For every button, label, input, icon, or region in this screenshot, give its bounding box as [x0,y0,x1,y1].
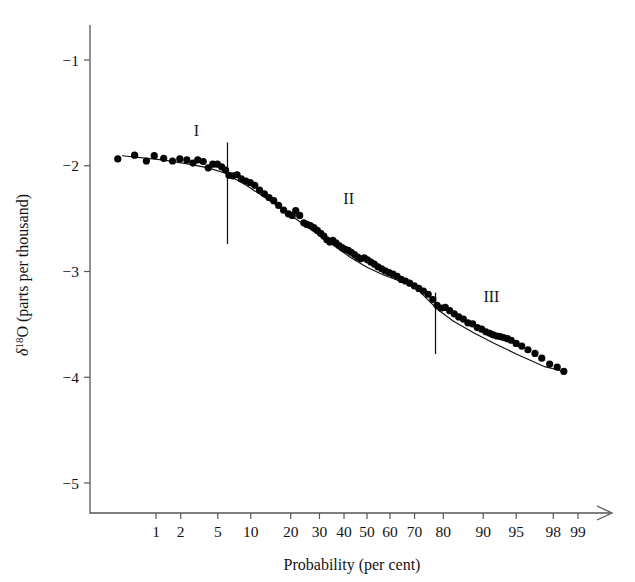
data-point [176,155,183,162]
svg-text:δ18O (parts per thousand): δ18O (parts per thousand) [13,194,32,356]
chart-canvas: δ18O (parts per thousand) −1−2−3−4−5 125… [0,0,635,582]
x-axis-title: Probability (per cent) [284,556,421,574]
y-axis-tick-label: −2 [63,157,80,174]
x-axis-tick-label: 60 [382,523,398,540]
data-point [538,355,545,362]
data-point [546,360,553,367]
data-point [183,156,190,163]
x-axis-tick-label: 80 [436,523,452,540]
data-point [131,152,138,159]
y-axis-title: δ18O (parts per thousand) [13,194,32,356]
data-point [518,342,525,349]
data-point [531,350,538,357]
y-axis-title-units: (parts per thousand) [14,194,32,322]
axis-lines [90,25,610,513]
data-point [524,346,531,353]
segment-dividers [227,142,435,353]
data-point [114,155,121,162]
data-point [160,155,167,162]
x-axis-tick-labels: 125102030405060708090959899 [152,523,586,540]
y-axis-tick-label: −3 [63,263,80,280]
y-axis-tick-label: −1 [63,52,80,69]
x-axis-tick-label: 2 [177,523,185,540]
x-axis-tick-label: 1 [152,523,160,540]
x-axis-tick-label: 95 [508,523,524,540]
y-axis-title-superscript: 18 [13,337,25,349]
data-point [143,157,150,164]
region-label-i: I [194,122,199,139]
data-point [296,212,303,219]
region-label-ii: II [343,190,354,207]
data-point [554,364,561,371]
data-point [151,152,158,159]
y-axis-title-element: O [14,326,31,338]
x-axis-tick-label: 40 [336,523,352,540]
data-point [429,296,436,303]
x-axis-tick-label: 98 [546,523,562,540]
y-axis-ticks [84,60,90,483]
probability-plot-figure: δ18O (parts per thousand) −1−2−3−4−5 125… [0,0,635,582]
y-axis-tick-labels: −1−2−3−4−5 [63,52,80,492]
x-axis-tick-label: 50 [359,523,375,540]
x-axis-tick-label: 90 [475,523,491,540]
x-axis-tick-label: 99 [570,523,586,540]
region-label-iii: III [483,288,499,305]
y-axis-tick-label: −4 [63,369,80,386]
data-point [169,157,176,164]
x-axis-tick-label: 20 [283,523,299,540]
x-axis-tick-label: 10 [243,523,259,540]
region-annotations: IIIIII [194,122,500,305]
x-axis-tick-label: 30 [312,523,328,540]
y-axis-tick-label: −5 [63,475,80,492]
data-point [200,158,207,165]
data-point [560,368,567,375]
data-point-series [114,152,567,375]
x-axis-tick-label: 5 [214,523,222,540]
x-axis-tick-label: 70 [407,523,423,540]
x-axis-ticks [156,513,578,519]
